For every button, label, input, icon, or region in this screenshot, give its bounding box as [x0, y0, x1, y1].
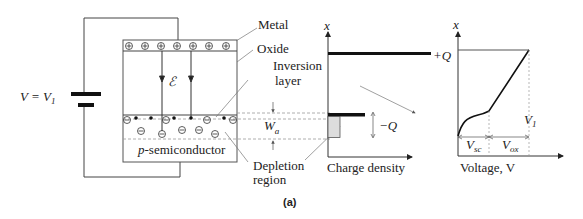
positive-charge-bar [328, 52, 431, 55]
vox-label: Vox [502, 137, 518, 154]
potential-curve [458, 50, 529, 136]
positive-charge-label: +Q [433, 48, 452, 63]
plus-charge-icon [206, 43, 213, 50]
plus-charge-icon [223, 43, 230, 50]
battery-icon [71, 92, 101, 107]
inversion-charge-bar [328, 113, 365, 117]
label-inversion-line1: Inversion [273, 58, 323, 73]
plus-charge-icon [126, 43, 133, 50]
annotation-leaders [216, 28, 415, 162]
battery-voltage-label: V = V1 [20, 89, 55, 106]
depletion-charge-bar [328, 117, 340, 138]
substrate-label: p-semiconductor [137, 142, 226, 157]
depletion-width-label: Wa [264, 118, 280, 136]
label-depletion-line1: Depletion [253, 158, 305, 173]
label-depletion-line2: region [253, 172, 287, 187]
v1-label: V1 [524, 112, 536, 129]
label-metal: Metal [258, 17, 289, 32]
plus-charge-icon [158, 43, 165, 50]
label-inversion-line2: layer [275, 73, 302, 88]
vsc-label: Vsc [466, 137, 481, 154]
label-oxide: Oxide [257, 41, 289, 56]
charge-y-axis-label: x [323, 18, 330, 33]
charge-density-plot [328, 32, 431, 157]
electric-field-label: ℰ [168, 74, 177, 89]
voltage-x-axis-label: Voltage, V [460, 160, 516, 175]
voltage-y-axis-label: x [452, 17, 459, 32]
plus-charge-icon [174, 43, 181, 50]
negative-charge-label: −Q [379, 118, 398, 133]
charge-x-axis-label: Charge density [327, 160, 406, 175]
mos-diagram: V = V1 ℰ [0, 0, 583, 219]
figure-caption: (a) [283, 196, 297, 208]
plus-charge-icon [142, 43, 149, 50]
plus-charge-icon [190, 43, 197, 50]
